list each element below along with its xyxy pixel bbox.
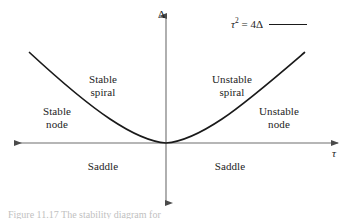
stable-spiral-line1: Stable	[75, 73, 131, 86]
stable-spiral-line2: spiral	[75, 86, 131, 99]
figure-caption: Figure 11.17 The stability diagram for	[8, 209, 348, 219]
region-label-saddle-right: Saddle	[203, 160, 257, 173]
vertical-axis-label: Δ	[158, 8, 165, 20]
region-label-unstable-node: Unstable node	[249, 105, 309, 130]
legend-line-swatch	[269, 24, 307, 25]
unstable-node-line2: node	[249, 118, 309, 131]
region-label-stable-spiral: Stable spiral	[75, 73, 131, 98]
unstable-spiral-line1: Unstable	[202, 73, 262, 86]
unstable-node-line1: Unstable	[249, 105, 309, 118]
legend-equation-rest: = 4Δ	[239, 18, 263, 30]
stable-node-line2: node	[30, 118, 84, 131]
region-label-unstable-spiral: Unstable spiral	[202, 73, 262, 98]
unstable-spiral-line2: spiral	[202, 86, 262, 99]
legend: τ2 = 4Δ	[231, 18, 307, 30]
region-label-saddle-left: Saddle	[76, 160, 130, 173]
legend-equation-label: τ2 = 4Δ	[231, 18, 263, 30]
horizontal-axis-label: τ	[332, 147, 336, 159]
stable-node-line1: Stable	[30, 105, 84, 118]
saddle-left-text: Saddle	[76, 160, 130, 173]
stability-diagram-figure: Δ τ τ2 = 4Δ Stable spiral Unstable spira…	[0, 0, 353, 219]
saddle-right-text: Saddle	[203, 160, 257, 173]
region-label-stable-node: Stable node	[30, 105, 84, 130]
